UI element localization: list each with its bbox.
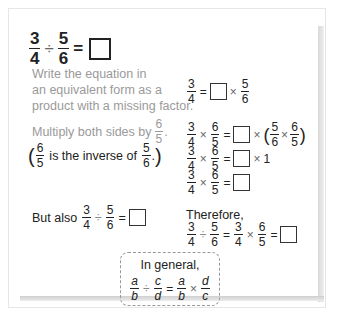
fraction: 56 [142, 142, 151, 169]
step2-equation-2: 34 × 65 = × 1 [186, 145, 270, 172]
divide-sign: ÷ [44, 39, 53, 59]
fraction: 56 [58, 30, 69, 67]
card-shadow-right [318, 26, 324, 302]
step1-equation: 34 = × 56 [186, 78, 250, 105]
inverse-note: ( 65 is the inverse of 56 . ) [28, 142, 162, 169]
missing-value-box [129, 209, 146, 226]
fraction: 56 [241, 78, 250, 105]
fraction: 34 [187, 78, 196, 105]
step2-equation-1: 34 × 65 = × ( 56 × 65 ) [186, 121, 306, 148]
missing-value-box [233, 126, 250, 143]
fraction: 65 [155, 118, 164, 145]
general-formula: ab ÷ cd = ab × dc [121, 275, 219, 302]
missing-value-box [280, 226, 297, 243]
but-also-equation: But also 34 ÷ 56 = [32, 204, 146, 231]
missing-value-box [89, 38, 111, 60]
general-rule-box: In general, ab ÷ cd = ab × dc [120, 252, 220, 306]
step2-equation-3: 34 × 65 = [186, 169, 250, 196]
missing-value-box [210, 83, 227, 100]
general-label: In general, [121, 258, 219, 272]
fraction: 65 [36, 142, 45, 169]
missing-value-box [233, 150, 250, 167]
missing-value-box [233, 174, 250, 191]
fraction: 34 [29, 30, 40, 67]
title-equation: 34 ÷ 56 = [28, 30, 111, 67]
step1-instructions: Write the equation in an equivalent form… [32, 66, 193, 114]
equals-sign: = [73, 39, 83, 59]
final-equation: 34 ÷ 56 = 34 × 65 = [186, 221, 297, 248]
